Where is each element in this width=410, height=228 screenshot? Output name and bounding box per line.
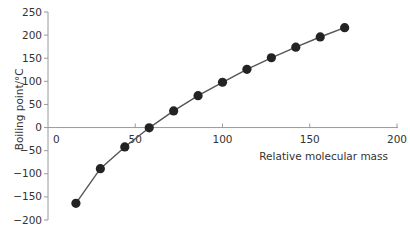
data-point bbox=[242, 65, 251, 74]
data-point bbox=[193, 91, 202, 100]
y-tick-label: 150 bbox=[22, 52, 42, 64]
data-point bbox=[218, 78, 227, 87]
data-point bbox=[169, 106, 178, 115]
data-point bbox=[145, 123, 154, 132]
data-point bbox=[316, 32, 325, 41]
y-tick-label: 200 bbox=[22, 29, 42, 41]
x-tick-label: 150 bbox=[300, 133, 320, 145]
tick-labels: −200−150−100−500501001502002500501001502… bbox=[13, 6, 407, 226]
data-point bbox=[96, 164, 105, 173]
x-axis-title: Relative molecular mass bbox=[259, 150, 388, 162]
y-axis-title: Boiling point/°C bbox=[13, 68, 25, 150]
data-point bbox=[291, 43, 300, 52]
data-point bbox=[120, 142, 129, 151]
x-tick-label: 100 bbox=[212, 133, 232, 145]
data-point bbox=[267, 53, 276, 62]
x-tick-label: 0 bbox=[53, 133, 60, 145]
y-tick-label: 50 bbox=[29, 98, 42, 110]
x-tick-label: 200 bbox=[387, 133, 407, 145]
y-tick-label: −200 bbox=[13, 214, 42, 226]
data-point bbox=[71, 199, 80, 208]
series bbox=[71, 23, 349, 208]
y-tick-label: −100 bbox=[13, 167, 42, 179]
y-tick-label: 0 bbox=[35, 121, 42, 133]
y-tick-label: 250 bbox=[22, 6, 42, 18]
ticks bbox=[44, 12, 397, 220]
data-point bbox=[340, 23, 349, 32]
series-line bbox=[76, 28, 345, 204]
y-tick-label: −150 bbox=[13, 190, 42, 202]
boiling-point-chart: −200−150−100−500501001502002500501001502… bbox=[0, 0, 410, 228]
axes bbox=[48, 12, 398, 220]
